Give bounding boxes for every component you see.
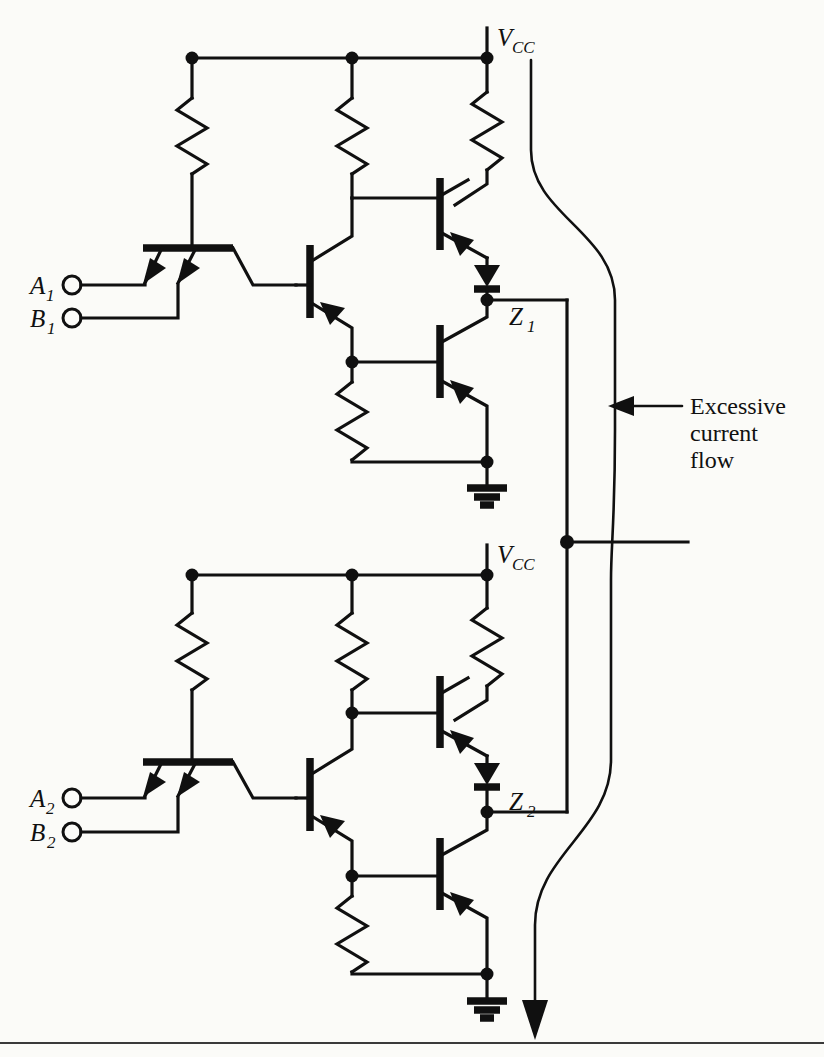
label-b1: B [30, 305, 45, 332]
label-vcc-top-sub: CC [512, 38, 535, 57]
label-a1-sub: 1 [46, 286, 55, 305]
annotation-line-2: current [690, 420, 758, 446]
annotation-line-1: Excessive [690, 393, 786, 419]
input-terminal-icon-b1[interactable] [63, 309, 81, 327]
input-terminal-icon-a1[interactable] [63, 276, 81, 294]
label-a2: A [28, 785, 46, 812]
label-z1-sub: 1 [527, 317, 536, 336]
label-z2: Z [509, 788, 524, 815]
label-b2-sub: 2 [47, 833, 56, 852]
label-a2-sub: 2 [46, 799, 55, 818]
input-terminal-icon-a2[interactable] [63, 789, 81, 807]
annotation-line-3: flow [690, 447, 735, 473]
circuit-schematic: A 1 B 1 [0, 0, 824, 1057]
figure-root: A 1 B 1 [0, 0, 824, 1057]
label-b1-sub: 1 [47, 319, 56, 338]
input-terminal-icon-b2[interactable] [63, 823, 81, 841]
label-z1: Z [509, 303, 524, 330]
label-b2: B [30, 819, 45, 846]
label-z2-sub: 2 [527, 802, 536, 821]
canvas-background [0, 0, 824, 1057]
label-vcc-bottom-sub: CC [512, 555, 535, 574]
label-a1: A [28, 272, 46, 299]
junction-dot-icon [346, 707, 359, 720]
